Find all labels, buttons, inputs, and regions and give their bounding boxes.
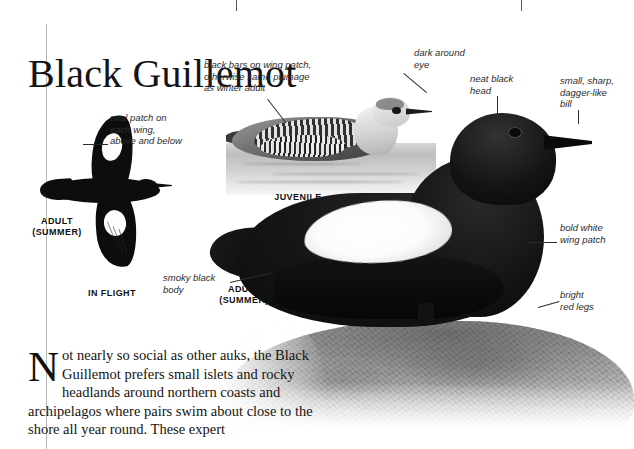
annotation-dark-around-eye: dark around eye — [414, 47, 465, 70]
annotation-bright-red-legs: bright red legs — [560, 289, 594, 312]
table-cell-1 — [46, 0, 236, 11]
adult-flank — [274, 257, 504, 319]
caption-in-flight: IN FLIGHT — [70, 288, 154, 299]
adult-summer-bird-illustration — [214, 107, 590, 347]
body-paragraph: Not nearly so social as other auks, the … — [28, 346, 328, 439]
leader-line-bill — [578, 110, 579, 124]
cut-off-table-strip — [0, 0, 634, 11]
leader-line-head — [497, 96, 498, 118]
tail-shape — [39, 178, 74, 201]
table-cell-2 — [236, 0, 521, 11]
leader-line-wing-patch — [527, 242, 557, 243]
table-cell-3 — [521, 0, 634, 11]
adult-leg — [418, 303, 434, 325]
drop-cap: N — [28, 346, 61, 384]
caption-adult-summer: ADULT (SUMMER) — [196, 284, 292, 306]
body-paragraph-text: ot nearly so social as other auks, the B… — [28, 347, 313, 437]
annotation-black-bars: black bars on wing patch, otherwise same… — [204, 59, 311, 94]
adult-bill — [544, 135, 592, 150]
annotation-oval-patch: oval patch on each wing, above and below — [110, 112, 182, 147]
annotation-bold-white-wing-patch: bold white wing patch — [560, 222, 605, 245]
field-guide-page: Black Guillemot oval patch on each wing,… — [0, 11, 634, 449]
annotation-dagger-bill: small, sharp, dagger-like bill — [560, 75, 614, 110]
bill-shape — [152, 183, 172, 188]
adult-eye — [508, 127, 522, 138]
annotation-neat-black-head: neat black head — [470, 73, 513, 96]
adult-head — [450, 113, 556, 205]
table-row — [46, 0, 634, 11]
leader-line-oval-patch — [83, 144, 108, 145]
caption-in-flight-stage: ADULT (SUMMER) — [22, 216, 92, 238]
